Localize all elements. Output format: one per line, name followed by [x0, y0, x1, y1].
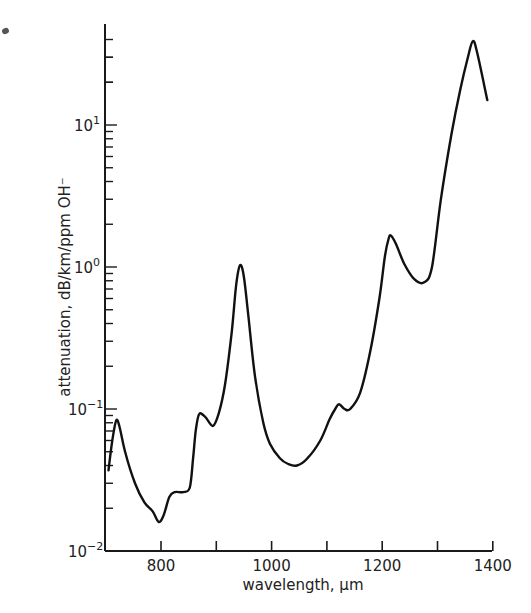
- y-tick-label: 10−2: [68, 540, 103, 561]
- x-ticks: [161, 541, 493, 551]
- attenuation-chart: 10−210−1100101 800100012001400 wavelengt…: [0, 0, 531, 613]
- y-axis-title: attenuation, dB/km/ppm OH⁻: [56, 177, 74, 396]
- x-tick-label: 1400: [474, 557, 512, 575]
- y-tick-label: 10−1: [68, 398, 103, 419]
- y-tick-label: 100: [74, 256, 100, 277]
- y-ticks: [105, 40, 117, 551]
- x-tick-label: 1200: [363, 557, 401, 575]
- x-tick-labels: 800100012001400: [147, 557, 512, 575]
- x-tick-label: 800: [147, 557, 176, 575]
- x-tick-label: 1000: [253, 557, 291, 575]
- axes: [105, 24, 493, 551]
- y-tick-label: 101: [74, 114, 100, 135]
- attenuation-curve: [109, 41, 488, 522]
- x-axis-title: wavelength, μm: [242, 576, 363, 594]
